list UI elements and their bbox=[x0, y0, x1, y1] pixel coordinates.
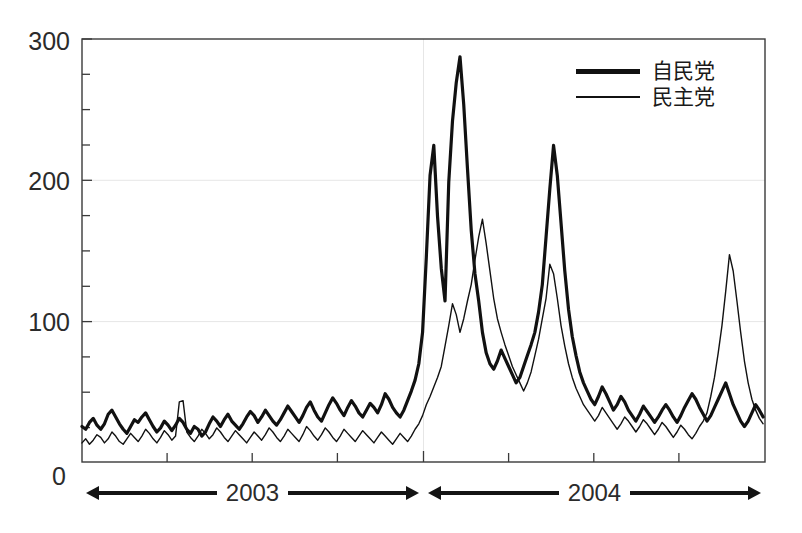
chart-figure: 300 200 100 0 bbox=[0, 0, 802, 533]
arrow-right-2004-icon bbox=[630, 486, 761, 500]
x-ticks bbox=[167, 451, 679, 462]
arrow-right-2003-icon bbox=[288, 486, 419, 500]
legend-item-dpj: 民主党 bbox=[576, 84, 756, 110]
arrow-left-2004-icon bbox=[428, 486, 559, 500]
x-period-label-2004: 2004 bbox=[559, 481, 630, 505]
x-period-2003: 2003 bbox=[86, 479, 419, 507]
legend-label-ldp: 自民党 bbox=[652, 61, 715, 82]
legend-item-ldp: 自民党 bbox=[576, 58, 756, 84]
legend-line-thick-icon bbox=[576, 64, 640, 78]
legend: 自民党 民主党 bbox=[576, 58, 756, 110]
y-ticks bbox=[82, 39, 92, 428]
x-period-label-2003: 2003 bbox=[217, 481, 288, 505]
x-period-2004: 2004 bbox=[428, 479, 761, 507]
legend-line-thin-icon bbox=[576, 90, 640, 104]
series-line-ldp bbox=[82, 57, 763, 436]
arrow-left-2003-icon bbox=[86, 486, 217, 500]
legend-label-dpj: 民主党 bbox=[652, 87, 715, 108]
